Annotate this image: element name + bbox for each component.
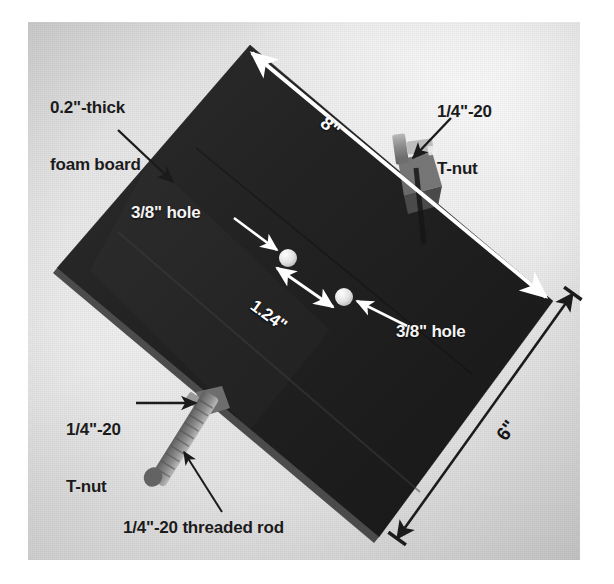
label-tnut-top-line1: 1/4"-20: [437, 102, 492, 121]
hole-upper: [279, 249, 297, 267]
label-tnut-bottom: 1/4"-20 T-nut: [66, 382, 121, 534]
label-tnut-top: 1/4"-20 T-nut: [437, 64, 492, 216]
threaded-rod: [140, 390, 219, 490]
label-tnut-bottom-line2: T-nut: [66, 477, 121, 496]
leader-threaded-rod: [184, 452, 222, 512]
label-hole-upper: 3/8" hole: [131, 203, 201, 222]
label-tnut-bottom-line1: 1/4"-20: [66, 420, 121, 439]
label-hole-lower: 3/8" hole: [396, 322, 466, 341]
label-foam-board: 0.2"-thick foam board: [50, 60, 141, 212]
label-threaded-rod: 1/4"-20 threaded rod: [123, 518, 284, 537]
hole-lower: [335, 288, 353, 306]
label-foam-board-line1: 0.2"-thick: [50, 98, 141, 117]
figure-canvas: 0.2"-thick foam board 1/4"-20 T-nut 1/4"…: [0, 0, 614, 584]
label-foam-board-line2: foam board: [50, 155, 141, 174]
label-tnut-top-line2: T-nut: [437, 159, 492, 178]
